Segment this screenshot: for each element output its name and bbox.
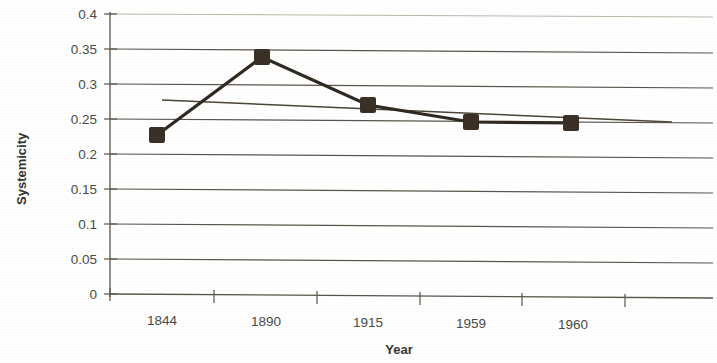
y-tick-label: 0.05 (71, 252, 97, 267)
data-markers (149, 49, 579, 143)
gridline-0.2 (110, 154, 713, 158)
y-tick-label: 0 (89, 287, 97, 302)
x-tick-label: 1844 (147, 313, 178, 328)
x-axis-title: Year (385, 342, 412, 357)
y-tick-label: 0.1 (78, 217, 97, 232)
y-tick-label: 0.15 (71, 182, 97, 197)
data-point-marker (149, 127, 165, 143)
gridline-0.4 (110, 14, 713, 17)
x-tick-label: 1890 (251, 314, 281, 329)
y-tick-label: 0.2 (78, 147, 97, 162)
y-tick-label: 0.25 (71, 112, 97, 127)
y-axis-tick-labels: 0.4 0.35 0.3 0.25 0.2 0.15 0.1 0.05 0 (71, 7, 98, 302)
gridline-0.05 (110, 259, 713, 263)
data-line (157, 57, 571, 135)
gridlines (110, 14, 713, 263)
y-tick-label: 0.3 (78, 77, 97, 92)
x-tick-label: 1915 (353, 315, 383, 330)
x-tick-label: 1959 (456, 316, 486, 331)
gridline-0.35 (110, 49, 713, 53)
y-axis-title: Systemicity (14, 132, 29, 205)
data-point-marker (563, 115, 579, 131)
gridline-0.3 (110, 84, 713, 88)
y-tick-label: 0.4 (78, 7, 97, 22)
y-tick-label: 0.35 (71, 42, 97, 57)
data-point-marker (254, 49, 270, 65)
data-point-marker (463, 114, 479, 130)
x-tick-label: 1960 (558, 317, 588, 332)
x-axis-line (110, 294, 713, 298)
data-point-marker (360, 97, 376, 113)
chart-container: 0.4 0.35 0.3 0.25 0.2 0.15 0.1 0.05 0 18… (0, 0, 717, 363)
gridline-0.1 (110, 224, 713, 228)
x-axis-tick-labels: 1844 1890 1915 1959 1960 (147, 313, 588, 332)
systemicity-line-chart: 0.4 0.35 0.3 0.25 0.2 0.15 0.1 0.05 0 18… (0, 0, 717, 363)
gridline-0.15 (110, 189, 713, 193)
trendline (162, 100, 672, 122)
